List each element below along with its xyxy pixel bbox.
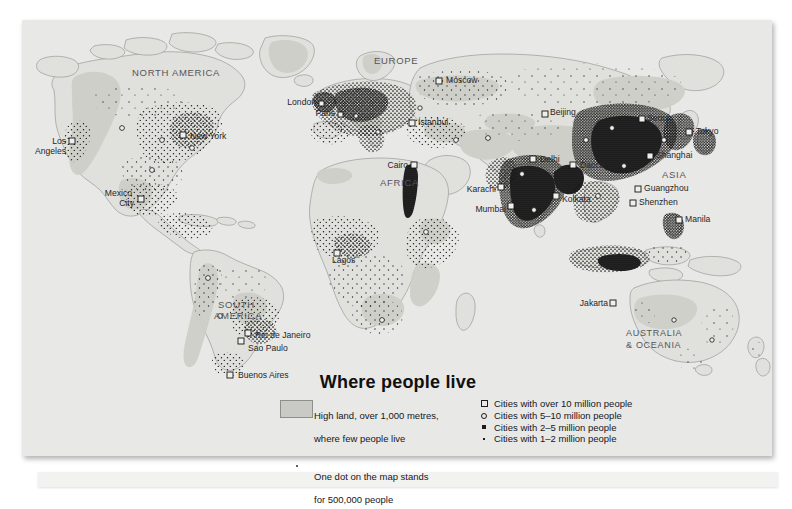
city-label-paris: Paris (315, 108, 335, 118)
city-label-moscow: Moscow (446, 75, 478, 85)
region-label-asia: ASIA (662, 169, 686, 180)
city-label-new-york: New York (190, 131, 227, 141)
city-label-los-angeles: Los (52, 136, 66, 146)
city-label-shenzhen: Shenzhen (639, 197, 678, 207)
city-label-tokyo: Tokyo (696, 126, 719, 136)
world-map-svg: NORTH AMERICA SOUTH AMERICA EUROPE AFRIC… (22, 20, 772, 380)
legend-dot-line1: One dot on the map stands (314, 471, 429, 483)
map-title-text: Where people live (318, 372, 476, 392)
legend-city-label: Cities with 1–2 million people (494, 433, 617, 444)
city-label-mexico-city-2: City (119, 198, 135, 208)
city-label-delhi: Delhi (540, 154, 560, 164)
city-label-kolkata: Kolkata (562, 194, 591, 204)
legend-dot-text: One dot on the map stands for 500,000 pe… (314, 460, 429, 509)
legend-city-item: Cities with 1–2 million people (474, 433, 754, 445)
legend-city-label: Cities with 5–10 million people (494, 410, 622, 421)
city-label-rio-de-janeiro: Rio de Janeiro (255, 330, 311, 340)
city-label-dacca: Dacca (580, 160, 605, 170)
legend-cities-column: Cities with over 10 million people Citie… (474, 398, 754, 445)
region-label-australia: AUSTRALIA (626, 328, 682, 338)
legend-dot-row: One dot on the map stands for 500,000 pe… (280, 460, 510, 509)
city-label-los-angeles-2: Angeles (35, 146, 66, 156)
city-label-london: London (287, 97, 316, 107)
legend-highland-text: High land, over 1,000 metres, where few … (314, 398, 439, 456)
legend-city-item: Cities with 5–10 million people (474, 410, 754, 422)
highland-swatch-icon (280, 400, 313, 418)
city-label-jakarta: Jakarta (580, 298, 608, 308)
city-label-sao-paulo: Sao Paulo (248, 343, 288, 353)
map-title: Where people live (22, 372, 772, 393)
city-label-mexico-city: Mexico (105, 188, 132, 198)
region-label-north-america: NORTH AMERICA (132, 67, 220, 78)
legend-city-item: Cities with 2–5 million people (474, 421, 754, 433)
city-marker-5-10m-icon (474, 413, 494, 419)
legend-highland-swatch-wrap (280, 398, 314, 418)
legend-city-item: Cities with over 10 million people (474, 398, 754, 410)
city-label-beijing: Beijing (550, 107, 576, 117)
region-label-oceania: & OCEANIA (626, 340, 681, 350)
legend-city-label: Cities with over 10 million people (494, 398, 632, 409)
city-label-seoul: Seoul (647, 113, 669, 123)
region-label-south-america-2: AMERICA (214, 310, 262, 321)
population-dot-icon (296, 465, 298, 467)
world-map: NORTH AMERICA SOUTH AMERICA EUROPE AFRIC… (22, 20, 772, 380)
city-label-manila: Manila (685, 214, 711, 224)
city-label-karachi: Karachi (467, 184, 496, 194)
region-label-africa: AFRICA (380, 177, 419, 188)
city-marker-2-5m-icon (474, 425, 494, 429)
legend-dot-line2: for 500,000 people (314, 494, 429, 506)
legend-highland-line2: where few people live (314, 433, 439, 445)
city-label-lagos: Lagos (332, 255, 355, 265)
city-label-istanbul: Istanbul (418, 117, 448, 127)
city-marker-over-10m-icon (474, 400, 494, 407)
legend-city-label: Cities with 2–5 million people (494, 422, 617, 433)
legend-dot-marker-wrap (280, 460, 314, 467)
city-marker-1-2m-icon (474, 438, 494, 441)
map-page-sheet: NORTH AMERICA SOUTH AMERICA EUROPE AFRIC… (22, 20, 772, 456)
city-label-guangzhou: Guangzhou (644, 183, 689, 193)
city-label-mumbai: Mumbai (475, 204, 506, 214)
city-label-cairo: Cairo (387, 160, 408, 170)
region-label-europe: EUROPE (374, 55, 418, 66)
city-label-shanghai: Shanghai (656, 150, 692, 160)
region-label-south-america: SOUTH (218, 299, 255, 310)
legend-highland-line1: High land, over 1,000 metres, (314, 410, 439, 422)
map-legend: High land, over 1,000 metres, where few … (22, 398, 772, 450)
